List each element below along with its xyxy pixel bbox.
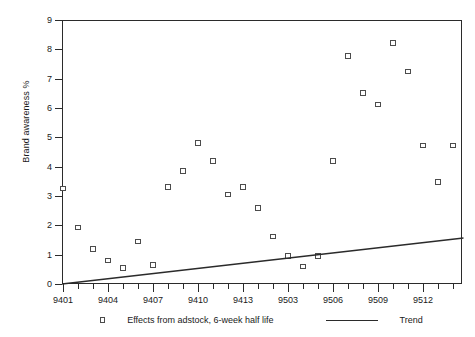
x-axis-minor-tick [123,284,124,289]
data-point-marker [60,186,66,192]
x-axis-minor-tick [168,284,169,289]
y-axis-tick [55,49,62,50]
x-axis-minor-tick [93,284,94,289]
y-axis-tick-label: 2 [4,220,52,230]
line-marker-icon [326,320,378,321]
x-axis-minor-tick [408,284,409,289]
x-axis-minor-tick [393,284,394,289]
data-point-marker [135,239,141,245]
data-point-marker [330,158,336,164]
x-axis-major-tick [378,284,379,292]
data-point-marker [150,262,156,268]
x-axis-minor-tick [438,284,439,289]
x-axis-minor-tick [453,284,454,289]
y-axis-tick-label: 4 [4,162,52,172]
chart-legend: Effects from adstock, 6-week half life T… [62,310,462,330]
y-axis-tick [55,255,62,256]
x-axis-major-tick [63,284,64,292]
plot-surface [62,20,462,284]
y-axis-tick-group: 0123456789 [0,0,52,337]
x-axis-minor-tick [348,284,349,289]
y-axis-tick [55,20,62,21]
x-axis-tick-label: 9503 [268,295,308,305]
scatter-chart-figure: Brand awareness % 0123456789 Effects fro… [0,0,475,337]
x-axis-minor-tick [78,284,79,289]
x-axis-minor-tick [303,284,304,289]
x-axis-minor-tick [213,284,214,289]
data-point-marker [105,258,111,264]
data-point-marker [345,53,351,59]
data-point-marker [315,253,321,259]
x-axis-tick-label: 9401 [43,295,83,305]
data-point-marker [375,102,381,108]
x-axis-tick-label: 9506 [313,295,353,305]
x-axis-tick-label: 9410 [178,295,218,305]
y-axis-tick-label: 6 [4,103,52,113]
x-axis-tick-label: 9407 [133,295,173,305]
x-axis-minor-tick [318,284,319,289]
x-axis-minor-tick [183,284,184,289]
y-axis-tick [55,284,62,285]
data-point-marker [240,184,246,190]
open-square-marker-icon [100,317,105,322]
y-axis-tick-label: 0 [4,279,52,289]
x-axis-tick-label: 9413 [223,295,263,305]
y-axis-tick [55,225,62,226]
x-axis-tick-label: 9509 [358,295,398,305]
y-axis-tick [55,196,62,197]
y-axis-tick-label: 1 [4,250,52,260]
x-axis-major-tick [108,284,109,292]
x-axis-minor-tick [228,284,229,289]
y-axis-tick-label: 3 [4,191,52,201]
data-point-marker [390,40,396,46]
data-point-marker [270,234,276,240]
x-axis-minor-tick [138,284,139,289]
data-point-marker [420,143,426,149]
x-axis-major-tick [288,284,289,292]
data-point-marker [360,90,366,96]
data-point-marker [210,158,216,164]
data-point-marker [180,168,186,174]
data-point-marker [90,246,96,252]
data-point-marker [435,179,441,185]
y-axis-tick-label: 9 [4,15,52,25]
y-axis-tick-label: 5 [4,132,52,142]
data-point-marker [255,205,261,211]
y-axis-tick [55,167,62,168]
data-point-marker [300,264,306,270]
x-axis-major-tick [333,284,334,292]
data-point-marker [450,143,456,149]
x-axis-major-tick [153,284,154,292]
data-point-marker [75,225,81,231]
x-axis-major-tick [243,284,244,292]
x-axis-minor-tick [363,284,364,289]
y-axis-tick [55,137,62,138]
x-axis-major-tick [198,284,199,292]
legend-item-trend[interactable]: Trend [326,315,423,325]
x-axis-minor-tick [273,284,274,289]
legend-item-adstock[interactable]: Effects from adstock, 6-week half life [100,315,274,325]
data-point-marker [165,184,171,190]
legend-label-adstock: Effects from adstock, 6-week half life [127,315,273,325]
legend-label-trend: Trend [400,315,423,325]
x-axis-tick-label: 9404 [88,295,128,305]
y-axis-tick-label: 8 [4,44,52,54]
y-axis-tick [55,79,62,80]
data-point-marker [285,253,291,259]
y-axis-tick-label: 7 [4,74,52,84]
y-axis-tick [55,108,62,109]
data-point-marker [195,140,201,146]
data-point-marker [225,192,231,198]
x-axis-tick-label: 9512 [403,295,443,305]
data-point-marker [405,69,411,75]
x-axis-minor-tick [258,284,259,289]
x-axis-major-tick [423,284,424,292]
data-point-marker [120,265,126,271]
